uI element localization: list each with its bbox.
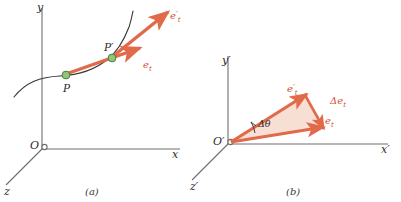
panel-a-vec-e-tp-sub: t	[178, 16, 181, 24]
panel-b-caption: (b)	[286, 186, 300, 197]
panel-a-y-axis-label: y	[36, 1, 44, 14]
panel-b-vector-label-delta-e-t: Δet	[329, 95, 346, 109]
svg-text:et: et	[143, 59, 152, 73]
panel-b-angle-label: Δθ	[257, 118, 271, 129]
panel-b-x-axis-label: x′	[381, 143, 390, 156]
panel-a-point-label-P-prime: P′	[103, 41, 114, 53]
panel-a-point-P-prime	[108, 54, 116, 62]
figure-canvas: y x z O P P′ et e′t (a)	[0, 0, 401, 202]
svg-text:e′t: e′t	[170, 9, 181, 24]
panel-b-vec-dEt-base: Δe	[329, 95, 343, 106]
panel-b-vector-label-e-t-prime: e′t	[287, 82, 298, 97]
panel-a-origin-marker	[42, 144, 47, 149]
panel-a-point-P	[62, 71, 70, 79]
panel-b-vec-e-t-sub: t	[331, 121, 334, 129]
vector-diagram-figure: y x z O P P′ et e′t (a)	[0, 0, 401, 202]
panel-a-x-axis-label: x	[172, 148, 179, 161]
panel-a: y x z O P P′ et e′t (a)	[3, 1, 181, 198]
panel-a-z-axis	[6, 149, 42, 185]
panel-b-z-axis	[192, 144, 228, 180]
panel-a-origin-label: O	[30, 139, 39, 152]
panel-b-z-axis-label: z′	[189, 180, 199, 193]
panel-a-z-axis-label: z	[3, 185, 10, 198]
panel-a-vec-e-t-sub: t	[149, 65, 152, 73]
svg-text:Δet: Δet	[329, 95, 346, 109]
panel-a-vector-e-t-prime	[112, 12, 168, 57]
panel-a-vector-e-t	[66, 48, 140, 74]
panel-a-point-label-P: P	[62, 82, 71, 94]
svg-text:et: et	[325, 115, 334, 129]
panel-a-vector-label-e-t-prime: e′t	[170, 9, 181, 24]
panel-b-origin-label: O′	[213, 135, 225, 148]
panel-b-y-axis-label: y′	[221, 54, 231, 67]
panel-b-vec-e-tp-sub: t	[295, 89, 298, 97]
panel-a-vector-label-e-t: et	[143, 59, 152, 73]
svg-text:e′t: e′t	[287, 82, 298, 97]
panel-a-caption: (a)	[85, 186, 99, 197]
panel-b: y′ x′ z′ O′ e′t et Δet	[189, 54, 390, 197]
panel-b-vec-dEt-sub: t	[343, 101, 346, 109]
panel-b-vector-label-e-t: et	[325, 115, 334, 129]
